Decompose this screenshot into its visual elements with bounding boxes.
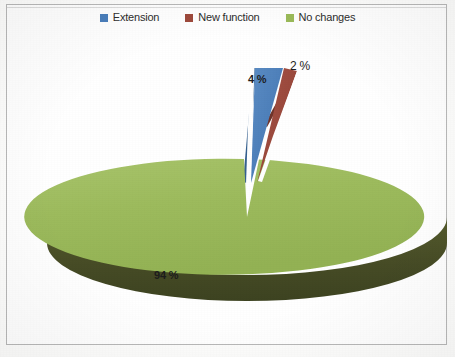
chart-frame: Extension New function No changes (6, 4, 447, 345)
data-label-extension: 4 % (248, 73, 266, 85)
legend-item-extension[interactable]: Extension (100, 12, 160, 23)
legend-item-no-changes[interactable]: No changes (286, 12, 356, 23)
pie-chart-screenshot: Extension New function No changes (0, 0, 455, 357)
chart-legend: Extension New function No changes (7, 12, 448, 23)
data-label-no-changes: 94 % (154, 269, 178, 281)
data-label-new-function: 2 % (290, 59, 310, 73)
legend-swatch-no-changes-icon (286, 14, 294, 22)
pie-svg (7, 5, 448, 346)
legend-swatch-extension-icon (100, 14, 108, 22)
legend-label-no-changes: No changes (299, 12, 356, 23)
pie-slice-no-changes-top (24, 159, 424, 275)
legend-swatch-new-function-icon (185, 14, 193, 22)
legend-label-extension: Extension (113, 12, 160, 23)
legend-label-new-function: New function (198, 12, 259, 23)
legend-item-new-function[interactable]: New function (185, 12, 259, 23)
pie-plot-area: 4 % 2 % 94 % (7, 5, 448, 346)
